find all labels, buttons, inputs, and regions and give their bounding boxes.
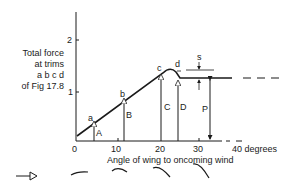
y-axis-label: Total force at trims a b c d of Fig 17.8 [2,48,64,92]
x-tick-30: 30 [193,144,203,154]
wing-section-a-icon [71,172,88,175]
y-label-line-3: a b c d [2,70,64,81]
y-axis [76,12,79,141]
wind-direction-arrow-icon [16,172,37,180]
point-label-a: a [88,113,93,123]
wing-section-d-icon [193,164,209,178]
y-label-line-4: of Fig 17.8 [2,81,64,92]
annotation-s: s [197,52,202,62]
y-label-line-1: Total force [2,48,64,59]
arrow-label-P: P [202,104,208,114]
wing-section-b-icon [112,169,127,172]
x-tick-20: 20 [155,144,165,154]
force-curve [77,69,232,136]
x-tick-40: 40 degrees [232,144,277,154]
y-tick-1: 1 [68,87,73,97]
y-label-line-2: at trims [2,59,64,70]
x-tick-10: 10 [111,144,121,154]
point-label-d: d [175,59,180,69]
arrow-label-A: A [96,128,102,138]
arrow-label-D: D [180,102,187,112]
arrow-label-C: C [164,102,171,112]
arrow-label-B: B [126,110,132,120]
x-tick-0: 0 [72,144,77,154]
x-axis [76,138,242,141]
x-axis-label: Angle of wing to oncoming wind [107,155,234,165]
y-tick-2: 2 [67,35,72,45]
point-label-c: c [157,63,162,73]
point-label-b: b [120,89,125,99]
wing-section-c-icon [153,167,170,177]
